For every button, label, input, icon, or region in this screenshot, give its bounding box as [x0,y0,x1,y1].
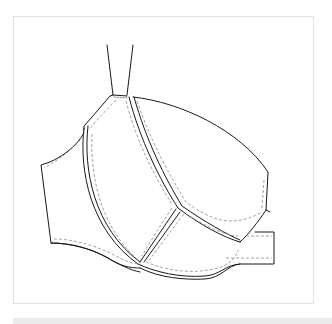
bra-sketch [0,0,332,324]
underwire-channel [83,128,138,264]
cup-seam [129,97,240,242]
strap [107,45,133,95]
side-wing [41,133,140,272]
cross-seam [140,209,176,262]
cup-outline [84,95,113,130]
